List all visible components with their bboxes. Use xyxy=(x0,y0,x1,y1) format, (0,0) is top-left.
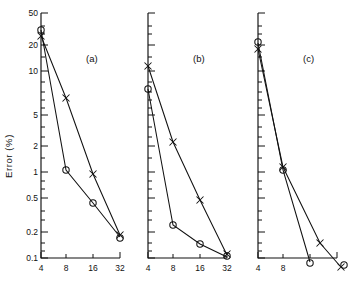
panel-a-ytick-10: 10 xyxy=(29,66,39,76)
panel-a-x-ticks xyxy=(41,252,120,258)
y-axis-label: Error (%) xyxy=(3,134,14,178)
panel-c-circle-series-line xyxy=(258,43,310,262)
panel-a-xtick-16: 16 xyxy=(88,263,98,273)
panel-a-xtick-4: 4 xyxy=(39,263,44,273)
panel-b-y-major-ticks xyxy=(148,13,155,258)
panel-a-ytick-0p1: 0.1 xyxy=(26,253,38,263)
panel-a-cross-series-line xyxy=(41,36,120,235)
panel-a-cross-markers xyxy=(38,33,124,239)
panel-c-circle-markers xyxy=(255,39,347,268)
panel-c-xtick-8: 8 xyxy=(281,263,286,273)
panel-b-xtick-8: 8 xyxy=(171,263,176,273)
figure-canvas: Error (%) xyxy=(0,0,360,283)
panel-a-ytick-1: 1 xyxy=(33,167,38,177)
panel-b-y-minor-ticks xyxy=(148,26,152,251)
panel-b-label: (b) xyxy=(193,53,205,64)
panel-a-circle-series-line xyxy=(41,30,120,237)
panel-c-x-ticks xyxy=(258,252,337,258)
panel-a-ytick-0p2: 0.2 xyxy=(26,227,38,237)
panel-b-xtick-4: 4 xyxy=(146,263,151,273)
panel-a-ytick-0p5: 0.5 xyxy=(26,193,38,203)
panel-a-ytick-50: 50 xyxy=(29,8,39,18)
panel-b-xtick-16: 16 xyxy=(195,263,205,273)
panel-c-xtick-4: 4 xyxy=(256,263,261,273)
panel-a: 50 20 10 5 2 1 0.5 0.2 0.1 4 8 16 32 xyxy=(26,8,125,273)
panel-a-xtick-8: 8 xyxy=(64,263,69,273)
panel-c: 4 8 (c) xyxy=(255,13,348,273)
multi-panel-log-plot: Error (%) xyxy=(0,0,360,283)
panel-a-label: (a) xyxy=(86,53,98,64)
panel-b-xtick-32: 32 xyxy=(222,263,232,273)
panel-a-xtick-32: 32 xyxy=(115,263,125,273)
panel-b: 4 8 16 32 (b) xyxy=(145,13,232,273)
panel-c-label: (c) xyxy=(303,53,314,64)
panel-a-ytick-5: 5 xyxy=(33,110,38,120)
panel-b-axis-lines xyxy=(148,13,227,258)
panel-b-cross-markers xyxy=(145,63,231,258)
panel-a-y-minor-ticks xyxy=(41,26,45,251)
panel-c-cross-markers xyxy=(255,46,345,271)
panel-c-cross-series-line xyxy=(258,49,340,266)
panel-b-x-ticks xyxy=(148,252,227,258)
panel-a-ytick-2: 2 xyxy=(33,141,38,151)
panel-b-cross-series-line xyxy=(148,66,227,255)
panel-a-ytick-20: 20 xyxy=(29,40,39,50)
